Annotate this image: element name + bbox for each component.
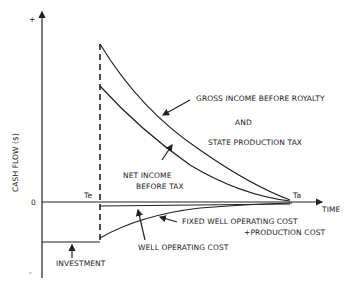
y-zero-label: 0 xyxy=(31,198,36,207)
te-label: Te xyxy=(83,191,92,200)
well-cost-pointer xyxy=(138,210,145,240)
y-minus-label: - xyxy=(29,268,32,277)
net-income-pointer xyxy=(162,145,172,160)
gross-income-label-1: GROSS INCOME BEFORE ROYALTY xyxy=(196,94,325,103)
y-axis-title: CASH FLOW ($) xyxy=(11,133,20,192)
x-axis-title: TIME xyxy=(321,205,341,214)
y-plus-label: + xyxy=(29,15,35,24)
fixed-cost-label-2: +PRODUCTION COST xyxy=(244,228,326,237)
investment-label: INVESTMENT xyxy=(56,259,106,268)
gross-income-label-and: AND xyxy=(235,118,252,127)
net-income-label-2: BEFORE TAX xyxy=(136,182,184,191)
cash-flow-diagram: + - 0 CASH FLOW ($) TIME Te Ta GROSS INC… xyxy=(0,0,350,282)
gross-income-pointer xyxy=(163,100,190,115)
net-income-label-1: NET INCOME xyxy=(123,171,172,180)
gross-income-label-2: STATE PRODUCTION TAX xyxy=(208,138,302,147)
fixed-cost-pointer xyxy=(160,217,177,222)
fixed-cost-label-1: FIXED WELL OPERATING COST xyxy=(182,217,298,226)
well-operating-cost-label: WELL OPERATING COST xyxy=(138,243,229,252)
ta-label: Ta xyxy=(292,191,301,200)
